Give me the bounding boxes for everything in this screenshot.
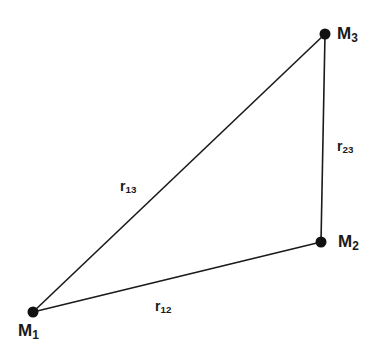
label-r23: r23 bbox=[337, 139, 353, 155]
edge-r23 bbox=[321, 34, 325, 242]
label-m1: M1 bbox=[18, 322, 39, 342]
label-m3: M3 bbox=[337, 25, 358, 45]
label-m3-name: M bbox=[337, 24, 351, 43]
label-r12-sub: 12 bbox=[160, 304, 171, 315]
label-r12: r12 bbox=[155, 299, 171, 315]
label-m1-name: M bbox=[18, 321, 32, 340]
label-r13: r13 bbox=[120, 179, 136, 195]
label-m2: M2 bbox=[338, 233, 359, 253]
triangle-diagram bbox=[0, 0, 384, 359]
label-m3-sub: 3 bbox=[351, 31, 358, 45]
point-m3 bbox=[320, 29, 331, 40]
label-m2-name: M bbox=[338, 232, 352, 251]
label-r23-sub: 23 bbox=[342, 144, 353, 155]
label-r13-sub: 13 bbox=[125, 184, 136, 195]
label-m2-sub: 2 bbox=[352, 239, 359, 253]
point-m2 bbox=[316, 237, 327, 248]
label-m1-sub: 1 bbox=[32, 328, 39, 342]
edge-r13 bbox=[33, 34, 325, 312]
point-m1 bbox=[28, 307, 39, 318]
edge-r12 bbox=[33, 242, 321, 312]
